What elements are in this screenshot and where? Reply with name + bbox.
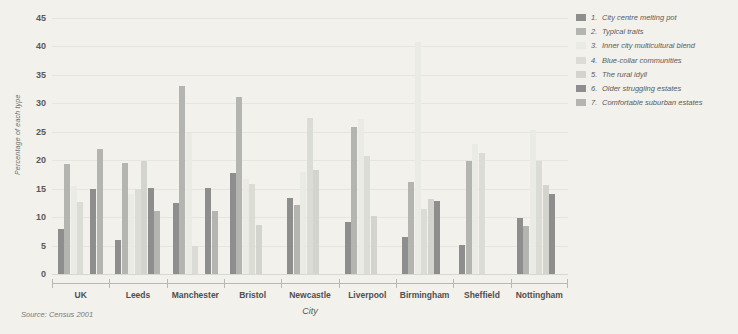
x-tick-mark — [453, 279, 454, 288]
bar[interactable] — [307, 118, 313, 274]
bar[interactable] — [530, 130, 536, 274]
bar[interactable] — [549, 194, 555, 274]
bar[interactable] — [364, 156, 370, 274]
bar-group — [109, 18, 166, 274]
bar-groups — [52, 18, 568, 274]
bar-group — [52, 18, 109, 274]
zero-baseline — [52, 274, 568, 275]
x-tick-mark — [339, 279, 340, 288]
x-tick-mark — [511, 279, 512, 288]
legend-item[interactable]: 4.Blue-collar communities — [576, 53, 734, 67]
bar[interactable] — [58, 229, 64, 275]
legend-item-label: Comfortable suburban estates — [602, 98, 702, 107]
bar[interactable] — [428, 199, 434, 274]
bar[interactable] — [371, 216, 377, 274]
legend-item-label: Inner city multicultural blend — [602, 41, 695, 50]
x-tick-mark — [567, 279, 568, 288]
legend-swatch-icon — [576, 57, 586, 64]
bar-group — [453, 18, 510, 274]
legend-item-number: 3. — [591, 41, 602, 50]
bar[interactable] — [466, 161, 472, 274]
y-tick-label: 45 — [24, 13, 46, 23]
bar[interactable] — [71, 186, 77, 274]
legend-item-number: 7. — [591, 98, 602, 107]
bar[interactable] — [434, 201, 440, 274]
bar[interactable] — [523, 226, 529, 274]
bar[interactable] — [173, 203, 179, 274]
legend-item[interactable]: 7.Comfortable suburban estates — [576, 96, 734, 110]
bar[interactable] — [536, 161, 542, 274]
x-tick-label: Liverpool — [339, 290, 396, 300]
bar[interactable] — [115, 240, 121, 274]
y-tick-label: 0 — [24, 269, 46, 279]
bar[interactable] — [230, 173, 236, 274]
x-tick-label: Sheffield — [453, 290, 510, 300]
bar[interactable] — [205, 188, 211, 274]
legend-item-number: 1. — [591, 13, 602, 22]
bar[interactable] — [249, 184, 255, 274]
bar[interactable] — [122, 163, 128, 274]
y-tick-label: 25 — [24, 127, 46, 137]
legend-item[interactable]: 2.Typical traits — [576, 24, 734, 38]
y-tick-label: 35 — [24, 70, 46, 80]
x-tick-label: UK — [52, 290, 109, 300]
legend-item[interactable]: 3.Inner city multicultural blend — [576, 39, 734, 53]
x-tick-mark — [52, 279, 53, 288]
bar[interactable] — [148, 188, 154, 274]
bar[interactable] — [345, 222, 351, 274]
x-axis-line — [52, 283, 568, 284]
legend-item[interactable]: 5.The rural idyll — [576, 67, 734, 81]
bar[interactable] — [154, 211, 160, 274]
bar[interactable] — [294, 205, 300, 274]
bar[interactable] — [192, 246, 198, 274]
bar[interactable] — [421, 209, 427, 274]
legend-item-number: 5. — [591, 70, 602, 79]
bar[interactable] — [186, 133, 192, 274]
bar[interactable] — [313, 170, 319, 274]
bar[interactable] — [459, 245, 465, 274]
bar[interactable] — [351, 127, 357, 274]
bar[interactable] — [517, 218, 523, 274]
bar[interactable] — [212, 211, 218, 274]
y-axis-title: Percentage of each type — [14, 95, 21, 176]
bar[interactable] — [90, 189, 96, 274]
x-tick-label: Bristol — [224, 290, 281, 300]
bar[interactable] — [135, 189, 141, 274]
bar[interactable] — [128, 194, 134, 274]
bar[interactable] — [256, 225, 262, 274]
legend-item[interactable]: 6.Older struggling estates — [576, 81, 734, 95]
bar-group — [396, 18, 453, 274]
x-tick-mark — [396, 279, 397, 288]
x-axis — [52, 279, 568, 289]
legend-swatch-icon — [576, 85, 586, 92]
bar[interactable] — [300, 172, 306, 274]
y-tick-label: 20 — [24, 155, 46, 165]
bar[interactable] — [243, 179, 249, 274]
bar[interactable] — [415, 42, 421, 274]
bar[interactable] — [543, 185, 549, 274]
bar[interactable] — [358, 119, 364, 274]
x-tick-label: Nottingham — [511, 290, 568, 300]
bar[interactable] — [141, 161, 147, 274]
chart-page: Percentage of each type 0510152025303540… — [0, 0, 738, 334]
legend-item[interactable]: 1.City centre melting pot — [576, 10, 734, 24]
bar[interactable] — [287, 198, 293, 274]
legend-item-label: City centre melting pot — [602, 13, 677, 22]
source-note: Source: Census 2001 — [21, 310, 93, 319]
legend: 1.City centre melting pot2.Typical trait… — [576, 10, 734, 110]
legend-swatch-icon — [576, 14, 586, 21]
bar-group — [511, 18, 568, 274]
bar[interactable] — [402, 237, 408, 274]
bar[interactable] — [236, 97, 242, 274]
bar[interactable] — [408, 182, 414, 274]
bar[interactable] — [479, 153, 485, 274]
x-tick-label: Newcastle — [281, 290, 338, 300]
x-tick-label: Manchester — [167, 290, 224, 300]
bar[interactable] — [77, 202, 83, 274]
legend-swatch-icon — [576, 28, 586, 35]
bar[interactable] — [97, 149, 103, 274]
bar[interactable] — [179, 86, 185, 274]
x-tick-mark — [224, 279, 225, 288]
bar[interactable] — [472, 144, 478, 274]
bar[interactable] — [64, 164, 70, 274]
